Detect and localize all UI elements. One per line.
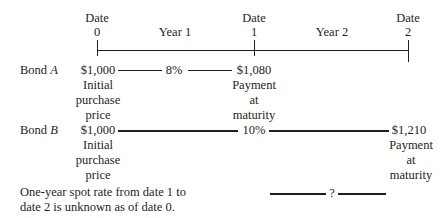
bond-a-price: $1,000: [73, 63, 123, 78]
unknown-rate-line-left: [270, 193, 326, 195]
bond-b-payment: $1,210: [384, 123, 434, 138]
bond-a-rate: 8%: [162, 63, 186, 78]
year-1-label: Year 1: [145, 25, 205, 40]
bond-a-price-note-1: Initial: [68, 78, 128, 93]
bond-b-payment-note-1: Payment: [380, 138, 442, 153]
unknown-rate-note-line-1: One-year spot rate from date 1 to: [20, 185, 186, 200]
bond-b-payment-note-3: maturity: [380, 168, 442, 183]
bond-b-line-right: [269, 130, 389, 132]
year-2-label: Year 2: [302, 25, 362, 40]
bond-a-price-note-3: price: [68, 108, 128, 123]
date-1-label: Date: [239, 11, 269, 26]
bond-a-payment-note-3: maturity: [224, 108, 284, 123]
bond-b-rate: 10%: [239, 123, 269, 138]
unknown-rate-note-line-2: date 2 is unknown as of date 0.: [20, 200, 175, 215]
tick-date-1: [254, 40, 255, 56]
bond-a-label: Bond A: [20, 63, 58, 78]
bond-b-price: $1,000: [73, 123, 123, 138]
bond-b-price-note-1: Initial: [68, 138, 128, 153]
bond-a-line-right: [188, 70, 232, 71]
unknown-rate-symbol: ?: [326, 186, 338, 201]
bond-b-line-left: [118, 130, 238, 132]
date-1-value: 1: [239, 25, 269, 40]
bond-b-price-note-3: price: [68, 168, 128, 183]
bond-b-price-note-2: purchase: [68, 153, 128, 168]
tick-date-2: [408, 40, 409, 62]
tick-date-0: [97, 40, 98, 56]
bond-a-price-note-2: purchase: [68, 93, 128, 108]
unknown-rate-line-right: [338, 193, 386, 195]
date-2-value: 2: [393, 25, 423, 40]
date-0-label: Date: [82, 11, 112, 26]
date-2-label: Date: [393, 11, 423, 26]
bond-a-payment-note-1: Payment: [224, 78, 284, 93]
bond-b-label: Bond B: [20, 123, 58, 138]
bond-a-payment-note-2: at: [224, 93, 284, 108]
timeline-axis: [97, 50, 409, 51]
bond-b-payment-note-2: at: [380, 153, 442, 168]
date-0-value: 0: [82, 25, 112, 40]
bond-a-payment: $1,080: [229, 63, 279, 78]
bond-a-line-left: [118, 70, 162, 71]
